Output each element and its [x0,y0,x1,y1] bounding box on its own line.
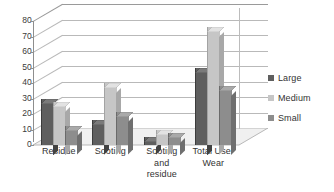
bar-medium-total-use-wear [207,27,219,145]
legend-swatch-icon [268,95,274,101]
y-axis-tick-mark [30,37,34,38]
bar-medium-sooting-and-residue [156,130,168,146]
y-axis-tick-mark [30,130,34,131]
plot-area [33,8,268,158]
bar-small-total-use-wear [219,86,231,145]
bar-small-sooting [116,112,128,145]
gridline-horizontal [62,66,268,67]
bar-small-sooting-and-residue [168,133,180,145]
legend-item-medium[interactable]: Medium [268,90,332,106]
legend-item-small[interactable]: Small [268,110,332,126]
bar-medium-residue [53,102,65,145]
chart-legend: LargeMediumSmall [268,70,332,130]
legend-label: Large [278,73,302,83]
y-axis-tick-mark [30,99,34,100]
legend-swatch-icon [268,115,274,121]
gridline-horizontal [62,51,268,52]
bar-chart: 80706050403020100 ResidueSootingSootinga… [0,0,334,192]
legend-label: Medium [278,93,311,103]
y-axis-tick-mark [30,114,34,115]
gridline-slant [33,35,63,53]
bar-large-sooting-and-residue [144,137,156,145]
y-axis-line [33,21,34,142]
bar-medium-sooting [104,83,116,145]
legend-swatch-icon [268,75,274,81]
gridline-slant [33,51,63,69]
back-wall-right-edge [239,8,240,129]
gridline-horizontal [62,82,268,83]
y-axis-tick-mark [30,52,34,53]
legend-label: Small [278,113,301,123]
gridline-slant [33,4,63,22]
gridline-horizontal [62,35,268,36]
gridline-slant [33,66,63,84]
gridline-slant [33,20,63,38]
legend-item-large[interactable]: Large [268,70,332,86]
bar-large-total-use-wear [195,68,207,146]
gridline-slant [33,82,63,100]
y-axis-tick-mark [30,68,34,69]
bar-small-residue [65,126,77,145]
gridline-horizontal [62,20,268,21]
gridline-horizontal [62,97,268,98]
y-axis-tick-mark [30,21,34,22]
y-axis-tick-mark [30,83,34,84]
bar-large-residue [41,99,53,146]
gridline-horizontal [62,113,268,114]
bar-large-sooting [92,120,104,145]
gridline-horizontal [62,4,268,5]
y-axis-tick-labels: 80706050403020100 [8,0,32,192]
